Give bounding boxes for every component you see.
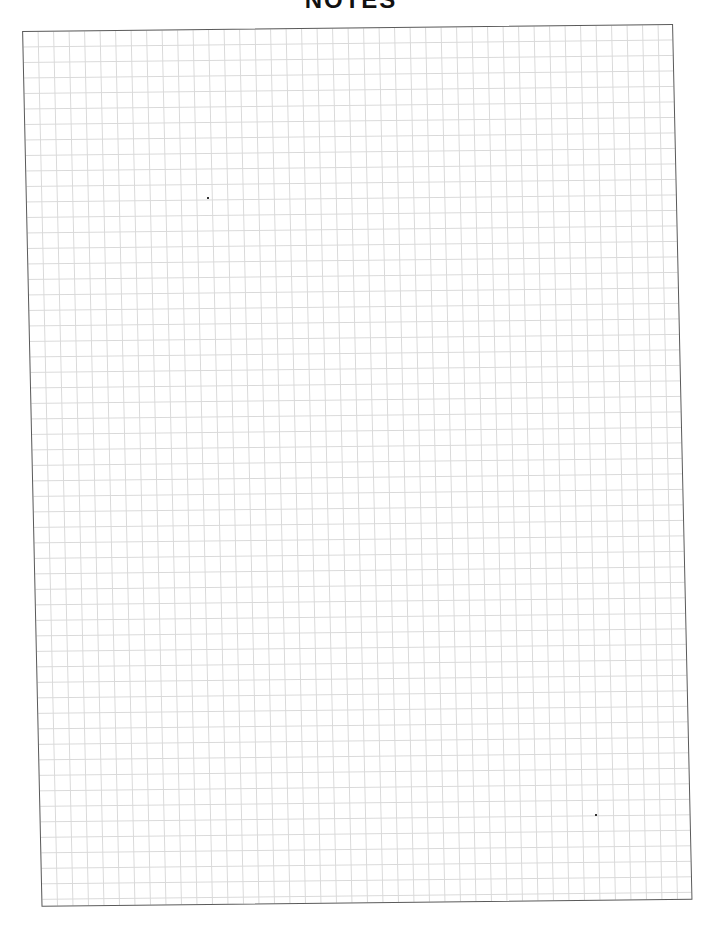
stray-mark: [595, 814, 597, 816]
page-title: NOTES: [0, 0, 702, 12]
grid-notes-area[interactable]: [22, 24, 692, 907]
stray-mark: [207, 197, 209, 199]
